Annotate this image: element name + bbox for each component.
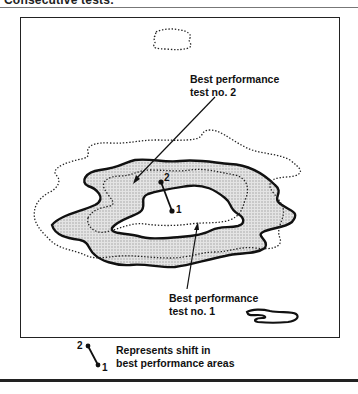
point-2-label: 2 [164, 172, 170, 183]
test1-label-line2: test no. 1 [169, 305, 258, 318]
test1-label-line1: Best performance [169, 292, 258, 305]
bottom-divider [0, 379, 358, 382]
test2-label-line2: test no. 2 [190, 86, 279, 99]
test1-label: Best performance test no. 1 [169, 292, 258, 318]
point-1-label: 1 [176, 204, 182, 215]
legend-text-line1: Represents shift in [116, 344, 234, 357]
legend-point-2-label: 2 [77, 340, 83, 351]
legend-point-1-label: 1 [102, 362, 108, 373]
contour-diagram [0, 0, 358, 394]
test2-label: Best performance test no. 2 [190, 73, 279, 99]
legend-shift-vector-icon [86, 344, 101, 368]
legend-text-line2: best performance areas [116, 357, 234, 370]
test2-label-line1: Best performance [190, 73, 279, 86]
legend-text: Represents shift in best performance are… [116, 344, 234, 370]
test2-small-dotted-island [154, 29, 191, 50]
